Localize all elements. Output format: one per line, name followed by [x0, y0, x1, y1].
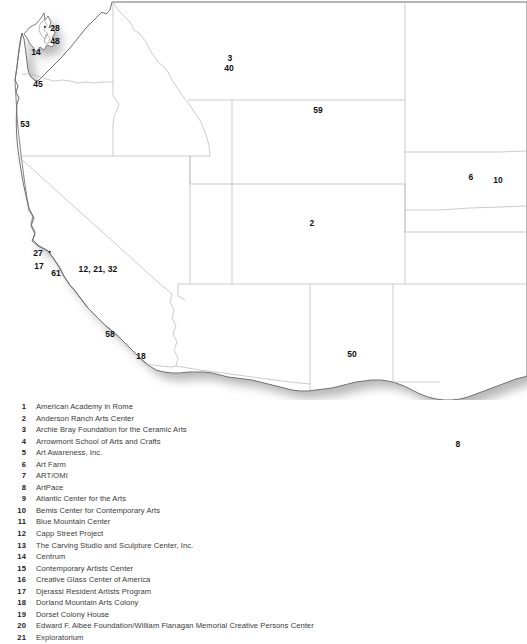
legend-number: 6 [0, 460, 26, 469]
map-label-48: 48 [50, 37, 60, 46]
legend-number: 7 [0, 471, 26, 480]
legend-label: Dorland Mountain Arts Colony [36, 598, 138, 607]
legend-number: 10 [0, 506, 26, 515]
legend-number: 4 [0, 437, 26, 446]
legend-number: 8 [0, 483, 26, 492]
legend-number: 21 [0, 633, 26, 642]
legend-label: Dorset Colony House [36, 610, 109, 619]
legend-number: 13 [0, 541, 26, 550]
list-item: 18 Dorland Mountain Arts Colony [0, 598, 527, 610]
legend-label: Blue Mountain Center [36, 517, 110, 526]
legend-number: 17 [0, 587, 26, 596]
legend-number: 20 [0, 621, 26, 630]
legend-label: Centrum [36, 552, 65, 561]
legend-number: 18 [0, 598, 26, 607]
legend-label: Atlantic Center for the Arts [36, 494, 126, 503]
legend-label: ArtPace [36, 483, 63, 492]
legend-label: Art Farm [36, 460, 66, 469]
list-item: 1 American Academy in Rome [0, 402, 527, 414]
map-label-17: 17 [34, 262, 44, 271]
list-item: 9 Atlantic Center for the Arts [0, 494, 527, 506]
map-label-53: 53 [20, 120, 30, 129]
legend-list: 1 American Academy in Rome 2 Anderson Ra… [0, 402, 527, 644]
map-label-18: 18 [136, 352, 146, 361]
list-item: 20 Edward F. Albee Foundation/William Fl… [0, 621, 527, 633]
list-item: 19 Dorset Colony House [0, 610, 527, 622]
legend-label: ART/OMI [36, 471, 68, 480]
us-west-map [0, 0, 527, 400]
map-label-61: 61 [51, 269, 61, 278]
map-label-2: 2 [310, 219, 315, 228]
list-item: 4 Arrowmont School of Arts and Crafts [0, 437, 527, 449]
mainland-outline [15, 2, 527, 400]
legend-label: Capp Street Project [36, 529, 103, 538]
list-item: 7 ART/OMI [0, 471, 527, 483]
map-label-10: 10 [493, 176, 503, 185]
map-label-27: 27 [33, 249, 43, 258]
legend-label: Anderson Ranch Arts Center [36, 414, 134, 423]
map-label-3: 3 [228, 54, 233, 63]
list-item: 21 Exploratorium [0, 633, 527, 644]
list-item: 2 Anderson Ranch Arts Center [0, 414, 527, 426]
map-figure: 28 48 14 45 53 3 40 59 6 10 2 27 17 61 1… [0, 0, 527, 400]
legend-number: 1 [0, 402, 26, 411]
map-label-45: 45 [33, 80, 43, 89]
map-landmass [15, 2, 527, 400]
legend-label: Creative Glass Center of America [36, 575, 150, 584]
legend-number: 2 [0, 414, 26, 423]
list-item: 11 Blue Mountain Center [0, 517, 527, 529]
list-item: 10 Bemis Center for Contemporary Arts [0, 506, 527, 518]
legend-label: Arrowmont School of Arts and Crafts [36, 437, 161, 446]
list-item: 13 The Carving Studio and Sculpture Cent… [0, 541, 527, 553]
legend-label: Djerassi Resident Artists Program [36, 587, 151, 596]
legend-label: Bemis Center for Contemporary Arts [36, 506, 160, 515]
legend-label: Archie Bray Foundation for the Ceramic A… [36, 425, 187, 434]
legend-number: 11 [0, 517, 26, 526]
map-label-12-21-32: 12, 21, 32 [79, 265, 118, 274]
legend-number: 15 [0, 564, 26, 573]
legend-label: The Carving Studio and Sculpture Center,… [36, 541, 193, 550]
map-label-40: 40 [224, 64, 234, 73]
list-item: 12 Capp Street Project [0, 529, 527, 541]
legend-number: 19 [0, 610, 26, 619]
legend-label: Contemporary Artists Center [36, 564, 133, 573]
legend-label: American Academy in Rome [36, 402, 133, 411]
list-item: 16 Creative Glass Center of America [0, 575, 527, 587]
legend-number: 12 [0, 529, 26, 538]
list-item: 3 Archie Bray Foundation for the Ceramic… [0, 425, 527, 437]
list-item: 5 Art Awareness, Inc. [0, 448, 527, 460]
map-label-6: 6 [469, 173, 474, 182]
legend-number: 14 [0, 552, 26, 561]
list-item: 8 ArtPace [0, 483, 527, 495]
legend-number: 9 [0, 494, 26, 503]
legend-label: Exploratorium [36, 633, 84, 642]
list-item: 15 Contemporary Artists Center [0, 564, 527, 576]
list-item: 17 Djerassi Resident Artists Program [0, 587, 527, 599]
map-label-50: 50 [347, 350, 357, 359]
map-label-28: 28 [50, 24, 60, 33]
map-label-58: 58 [105, 330, 115, 339]
legend-label: Edward F. Albee Foundation/William Flana… [36, 621, 314, 630]
map-label-59: 59 [313, 106, 323, 115]
map-label-14: 14 [31, 48, 41, 57]
legend-number: 3 [0, 425, 26, 434]
legend-label: Art Awareness, Inc. [36, 448, 102, 457]
list-item: 6 Art Farm [0, 460, 527, 472]
list-item: 14 Centrum [0, 552, 527, 564]
legend-number: 5 [0, 448, 26, 457]
legend-number: 16 [0, 575, 26, 584]
